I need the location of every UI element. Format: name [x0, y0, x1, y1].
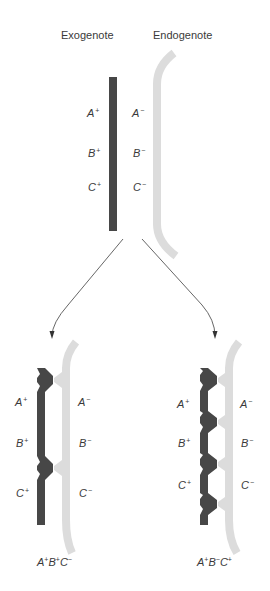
- right-crossover-light-3: [218, 454, 233, 474]
- exogenote-title: Exogenote: [61, 29, 114, 41]
- right-exo-label-b: B+: [178, 437, 190, 449]
- left-exo-label-c: C+: [16, 487, 29, 499]
- top-exo-label-c: C+: [88, 181, 101, 193]
- arrowhead-right-icon: [213, 331, 218, 339]
- left-endo-label-c: C−: [79, 487, 92, 499]
- left-genotype: A+B+C−: [37, 556, 72, 568]
- top-exo-label-a: A+: [87, 107, 99, 119]
- right-crossover-light-4: [218, 494, 233, 514]
- right-crossover-light-2: [218, 412, 233, 432]
- left-endo-label-a: A−: [78, 396, 90, 408]
- left-exo-label-a: A+: [15, 396, 27, 408]
- arrow-left: [52, 239, 123, 336]
- exogenote-strand: [109, 77, 117, 231]
- right-endo-label-a: A−: [240, 398, 252, 410]
- arrowhead-left-icon: [50, 331, 55, 339]
- right-recombinant: [200, 342, 239, 553]
- left-endo-label-b: B−: [79, 437, 91, 449]
- recombination-diagram: [0, 0, 270, 591]
- right-exo-label-c: C+: [178, 479, 191, 491]
- top-exo-label-b: B+: [88, 147, 100, 159]
- left-recombinant: [37, 342, 76, 553]
- top-endo-label-a: A−: [132, 107, 144, 119]
- right-exo-label-a: A+: [177, 398, 189, 410]
- endogenote-title: Endogenote: [153, 29, 212, 41]
- left-exo-label-b: B+: [16, 437, 28, 449]
- right-endo-label-c: C−: [241, 479, 254, 491]
- top-endo-label-b: B−: [133, 147, 145, 159]
- right-genotype: A+B−C+: [197, 556, 232, 568]
- right-crossover-light-1: [218, 370, 233, 390]
- left-exogenote-strand: [37, 368, 53, 525]
- right-exogenote-strand: [200, 368, 217, 525]
- endogenote-strand: [157, 53, 176, 256]
- top-endo-label-c: C−: [133, 181, 146, 193]
- right-endo-label-b: B−: [241, 437, 253, 449]
- arrow-right: [142, 239, 215, 336]
